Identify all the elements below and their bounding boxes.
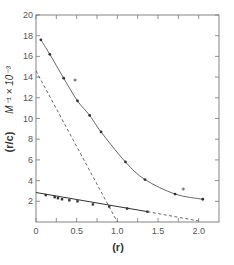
series-layer: ** <box>36 38 204 222</box>
data-point <box>76 200 78 202</box>
series-upper-curve-data- <box>39 38 204 200</box>
x-tick-label: 0.5 <box>70 226 83 236</box>
y-tick-label: 10 <box>23 114 33 124</box>
y-tick-label: 6 <box>28 155 33 165</box>
asterisk-marker: * <box>181 187 185 196</box>
data-point <box>68 199 70 201</box>
data-point <box>62 77 65 80</box>
asterisk-marker: * <box>73 78 77 87</box>
y-tick-label: 8 <box>28 134 33 144</box>
series-lower-line-data- <box>36 193 149 213</box>
x-tick-label: 1.5 <box>152 226 165 236</box>
y-tick-label: 16 <box>23 51 33 61</box>
y-tick-label: 20 <box>23 10 33 20</box>
x-tick-label: 2.0 <box>192 226 205 236</box>
plot-border <box>36 15 219 222</box>
data-point <box>126 207 128 209</box>
fit-line <box>36 193 147 212</box>
plot-frame <box>36 15 219 222</box>
data-point <box>174 193 177 196</box>
x-tick-label: 1.0 <box>111 226 124 236</box>
data-point <box>57 197 59 199</box>
y-axis-label: (r/c) M⁻¹ × 10⁻³ <box>3 66 15 153</box>
curve-line <box>41 40 203 199</box>
y-tick-label: 14 <box>23 72 33 82</box>
series-upper-curve-outliers: ** <box>73 78 185 196</box>
scatchard-plot: 00.51.01.52.02468101214161820 ** (r) (r/… <box>0 0 234 265</box>
data-point <box>144 178 147 181</box>
y-axis-label-unit: M⁻¹ × 10⁻³ <box>4 66 15 114</box>
series-lower-line-extrapolation <box>147 212 198 221</box>
data-point <box>54 196 56 198</box>
data-point <box>88 114 91 117</box>
data-point <box>201 198 204 201</box>
dashed-line <box>147 212 198 221</box>
data-point <box>61 198 63 200</box>
y-axis-label-main: (r/c) <box>3 131 15 152</box>
axis-tick-labels: 00.51.01.52.02468101214161820 <box>23 10 205 236</box>
y-tick-label: 2 <box>28 196 33 206</box>
x-tick-label: 0 <box>33 226 38 236</box>
data-point <box>124 161 127 164</box>
data-point <box>100 131 103 134</box>
data-point <box>76 100 79 103</box>
x-axis-label: (r) <box>112 241 124 253</box>
data-point <box>48 53 51 56</box>
axis-ticks <box>36 15 219 222</box>
data-point <box>39 38 42 41</box>
y-tick-label: 18 <box>23 31 33 41</box>
y-tick-label: 4 <box>28 176 33 186</box>
y-tick-label: 12 <box>23 93 33 103</box>
data-point <box>92 203 94 205</box>
data-point <box>45 194 47 196</box>
